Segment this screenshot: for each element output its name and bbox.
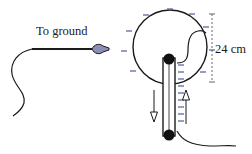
belt-column [163, 54, 175, 141]
diameter-label: 24 cm [215, 42, 246, 57]
lower-wire [177, 131, 236, 146]
belt-down-arrow [151, 90, 158, 122]
ground-probe [12, 44, 109, 116]
ground-label: To ground [36, 24, 88, 39]
